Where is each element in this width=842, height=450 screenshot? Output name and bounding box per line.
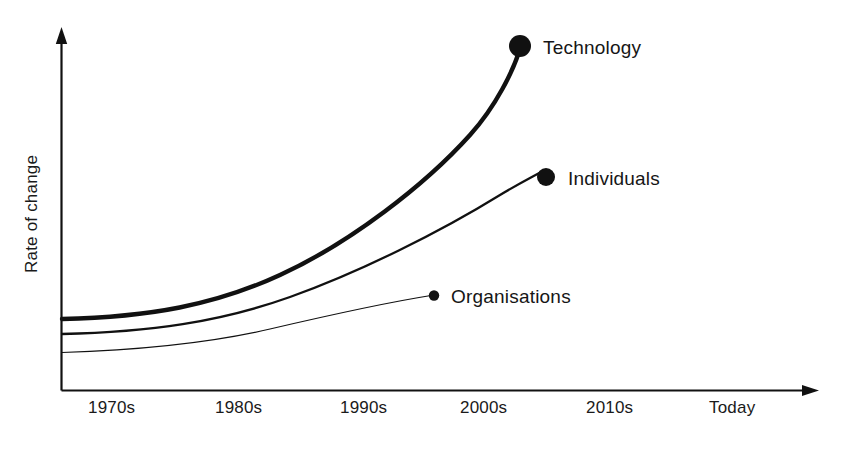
individuals-label: Individuals [568, 168, 660, 189]
organisations-label: Organisations [451, 286, 571, 307]
technology-endpoint-marker [509, 35, 531, 57]
x-tick-label-2010s: 2010s [586, 398, 633, 417]
x-tick-label-1970s: 1970s [88, 398, 135, 417]
x-tick-label-today: Today [709, 398, 756, 417]
chart-background [0, 0, 842, 450]
organisations-endpoint-marker [429, 290, 439, 300]
x-tick-label-2000s: 2000s [460, 398, 507, 417]
y-axis-title: Rate of change [22, 155, 41, 273]
chart-figure: Rate of change 1970s 1980s 1990s 2000s 2… [0, 0, 842, 450]
technology-label: Technology [543, 37, 641, 58]
individuals-endpoint-marker [537, 168, 555, 186]
x-tick-label-1990s: 1990s [340, 398, 387, 417]
x-tick-label-1980s: 1980s [215, 398, 262, 417]
rate-of-change-chart: Rate of change 1970s 1980s 1990s 2000s 2… [0, 0, 842, 450]
